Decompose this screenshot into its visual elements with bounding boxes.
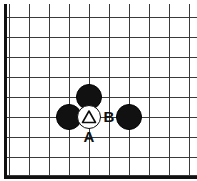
board-edge-left [4,4,7,178]
grid-line-horizontal [5,17,197,18]
grid-line-horizontal [5,77,197,78]
grid-line-horizontal [5,137,197,138]
board-edge-bottom [4,176,197,179]
black-stone-right [116,104,142,130]
go-board-diagram: A B [0,0,197,181]
board-label-b: B [99,109,119,124]
grid-line-vertical [189,4,190,178]
grid-line-horizontal [5,157,197,158]
grid-line-vertical [149,4,150,178]
white-stone-marked [77,105,101,129]
grid-line-vertical [169,4,170,178]
grid-line-vertical [69,4,70,178]
grid-line-horizontal [5,57,197,58]
grid-line-vertical [9,4,10,178]
grid-line-vertical [49,4,50,178]
grid-line-horizontal [5,37,197,38]
board-label-a: A [79,129,99,144]
grid-line-vertical [29,4,30,178]
grid-line-vertical [109,4,110,178]
grid-line-vertical [129,4,130,178]
